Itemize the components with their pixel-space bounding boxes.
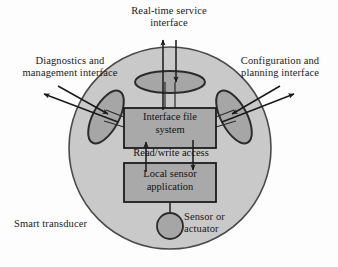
real-time-service-interface-ellipse — [135, 71, 205, 93]
configuration-and-planning-interface-label: Configuration and planning interface — [222, 55, 338, 79]
smart-transducer-figure: Real-time service interface Diagnostics … — [0, 0, 338, 267]
interface-file-system-label: Interface file system — [122, 111, 218, 136]
diagnostics-and-management-interface-label: Diagnostics and management interface — [8, 55, 132, 79]
sensor-or-actuator-circle — [157, 213, 183, 239]
read-write-access-label: Read/write access — [112, 147, 230, 160]
local-sensor-application-label: Local sensor application — [122, 168, 218, 193]
real-time-service-interface-label: Real-time service interface — [104, 5, 234, 29]
smart-transducer-label: Smart transducer — [14, 218, 118, 230]
sensor-or-actuator-label: Sensor or actuator — [184, 211, 258, 235]
